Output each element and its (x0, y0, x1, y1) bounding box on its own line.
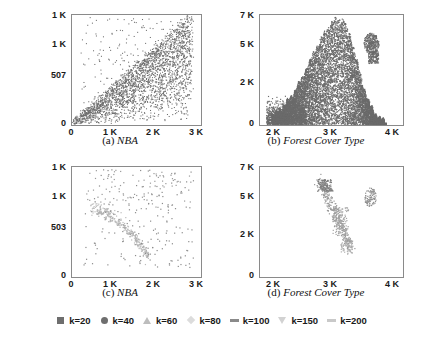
legend-item-k-60[interactable]: k=60 (143, 315, 177, 326)
panel-a-ytick-3: 1 K (30, 10, 66, 20)
panel-c-ytick-3: 1 K (30, 162, 66, 172)
legend-label: k=80 (199, 315, 220, 326)
panel-a-caption: (a) NBA (30, 134, 210, 146)
panel-d-ytick-1: 2 K (218, 229, 254, 239)
panel-b-caption-label: (b) (268, 134, 281, 146)
legend-item-k-20[interactable]: k=20 (56, 315, 90, 326)
diamond-marker-icon (186, 316, 195, 325)
panel-d-caption-label: (d) (268, 286, 281, 298)
legend-item-k-150[interactable]: k=150 (278, 315, 318, 326)
circle-marker-icon (100, 316, 109, 325)
panel-d-datapoints (260, 167, 403, 277)
panel-c-caption-label: (c) (102, 286, 114, 298)
panel-a-ytick-1: 507 (30, 70, 66, 80)
panel-c-datapoints (72, 167, 201, 277)
figure-legend: k=20k=40k=60k=80k=100k=150k=200 (0, 308, 423, 332)
panel-b-caption: (b) Forest Cover Type (218, 134, 414, 146)
panel-a-ytick-0: 0 (30, 118, 66, 128)
legend-item-k-200[interactable]: k=200 (327, 315, 367, 326)
legend-label: k=40 (113, 315, 134, 326)
panel-a-plot-area (71, 14, 202, 126)
panel-b-ytick-0: 0 (218, 118, 254, 128)
panel-a-ytick-2: 1 K (30, 39, 66, 49)
legend-label: k=100 (243, 315, 270, 326)
panel-a-nba: 1 K 1 K 507 0 0 1 K 2 K 3 K (a) NBA (30, 8, 210, 156)
panel-b-ytick-3: 7 K (218, 10, 254, 20)
panel-c-ytick-1: 503 (30, 222, 66, 232)
panel-b-ytick-2: 5 K (218, 39, 254, 49)
panel-d-caption: (d) Forest Cover Type (218, 286, 414, 298)
panel-d-caption-name: Forest Cover Type (283, 286, 364, 298)
dash-marker-icon (327, 316, 336, 325)
legend-label: k=200 (340, 315, 367, 326)
legend-item-k-100[interactable]: k=100 (230, 315, 270, 326)
panel-d-ytick-0: 0 (218, 270, 254, 280)
panel-a-caption-label: (a) (102, 134, 114, 146)
square-marker-icon (56, 316, 65, 325)
panel-b-datapoints (260, 15, 403, 125)
panel-c-plot-area (71, 166, 202, 278)
panel-c-caption: (c) NBA (30, 286, 210, 298)
dash-marker-icon (230, 316, 239, 325)
legend-label: k=20 (69, 315, 90, 326)
panel-b-plot-area (259, 14, 404, 126)
panel-a-caption-name: NBA (117, 134, 138, 146)
panel-c-caption-name: NBA (117, 286, 138, 298)
panel-d-ytick-3: 7 K (218, 162, 254, 172)
panel-b-ytick-1: 2 K (218, 77, 254, 87)
triangle-down-marker-icon (278, 316, 287, 325)
panel-b-caption-name: Forest Cover Type (283, 134, 364, 146)
figure-scatter-grid: 1 K 1 K 507 0 0 1 K 2 K 3 K (a) NBA 7 K … (0, 0, 423, 338)
legend-label: k=60 (156, 315, 177, 326)
legend-label: k=150 (291, 315, 318, 326)
panel-d-ytick-2: 5 K (218, 191, 254, 201)
panel-c-nba: 1 K 1 K 503 0 0 1 K 2 K 3 K (c) NBA (30, 160, 210, 306)
panel-c-ytick-2: 1 K (30, 191, 66, 201)
panel-d-forest-cover-type: 7 K 5 K 2 K 0 2 K 3 K 4 K (d) Forest Cov… (218, 160, 414, 306)
legend-item-k-40[interactable]: k=40 (100, 315, 134, 326)
legend-item-k-80[interactable]: k=80 (186, 315, 220, 326)
panel-b-forest-cover-type: 7 K 5 K 2 K 0 2 K 3 K 4 K (b) Forest Cov… (218, 8, 414, 156)
panel-c-ytick-0: 0 (30, 270, 66, 280)
panel-a-datapoints (72, 15, 201, 125)
panel-d-plot-area (259, 166, 404, 278)
triangle-marker-icon (143, 316, 152, 325)
